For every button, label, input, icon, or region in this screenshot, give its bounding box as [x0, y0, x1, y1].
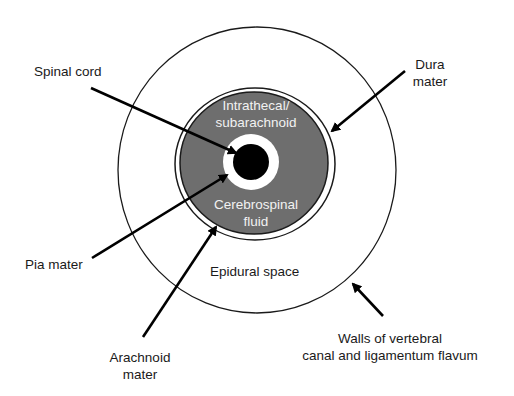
walls-label: Walls of vertebral canal and ligamentum …	[290, 330, 490, 364]
dura-line-2: mater	[405, 73, 455, 90]
pia-mater-label: Pia mater	[25, 256, 83, 273]
intrathecal-line-1: Intrathecal/	[206, 97, 306, 114]
spinal-cord-label: Spinal cord	[34, 63, 102, 80]
csf-line-2: fluid	[201, 213, 311, 230]
walls-line-1: Walls of vertebral	[290, 330, 490, 347]
walls-line-2: canal and ligamentum flavum	[290, 347, 490, 364]
arachnoid-mater-label: Arachnoid mater	[100, 349, 180, 383]
arachnoid-line-1: Arachnoid	[100, 349, 180, 366]
dura-mater-label: Dura mater	[405, 56, 455, 90]
arachnoid-line-2: mater	[100, 366, 180, 383]
spinal-cord	[233, 144, 269, 180]
walls-arrow	[353, 284, 383, 316]
dura-line-1: Dura	[405, 56, 455, 73]
epidural-space-label: Epidural space	[210, 263, 299, 280]
intrathecal-label: Intrathecal/ subarachnoid	[206, 97, 306, 131]
intrathecal-line-2: subarachnoid	[206, 114, 306, 131]
csf-line-1: Cerebrospinal	[201, 196, 311, 213]
csf-label: Cerebrospinal fluid	[201, 196, 311, 230]
